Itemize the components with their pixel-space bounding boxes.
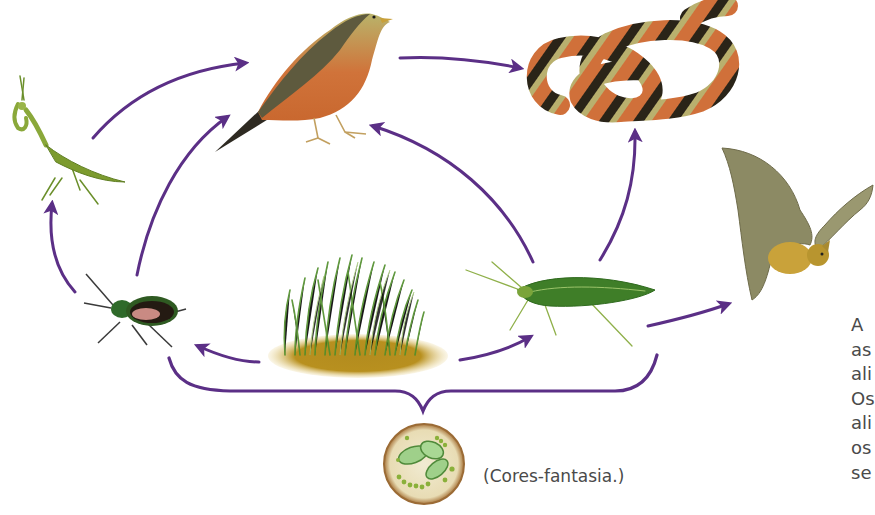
arrow-grasshopper-to-snake — [600, 132, 635, 260]
arrow-beetle-to-bird — [137, 117, 227, 275]
bird-illustration — [215, 14, 393, 152]
side-text-line: ali — [851, 412, 872, 433]
side-text-cropped: A as ali Os ali os se — [851, 313, 875, 485]
side-text-line: se — [851, 462, 871, 483]
grasshopper-illustration — [466, 262, 655, 346]
side-text-line: A — [851, 314, 863, 335]
snake-illustration — [537, 6, 729, 112]
arrow-grass-to-beetle — [198, 346, 259, 362]
side-text-line: ali — [851, 363, 872, 384]
side-text-line: as — [851, 339, 871, 360]
decomposers-illustration — [384, 424, 464, 504]
side-text-line: os — [851, 437, 871, 458]
arrow-mantis-to-bird — [93, 63, 245, 138]
arrow-grass-to-grasshopper — [460, 337, 530, 360]
mantis-illustration — [14, 76, 125, 204]
side-text-line: Os — [851, 388, 875, 409]
beetle-illustration — [84, 274, 186, 347]
arrow-bird-to-snake — [400, 57, 520, 68]
grass-illustration — [268, 255, 448, 378]
arrow-grasshopper-to-bat — [648, 304, 728, 326]
arrow-grasshopper-to-bird — [373, 126, 533, 262]
caption-fantasy-colors: (Cores-fantasia.) — [483, 466, 624, 486]
arrow-beetle-to-mantis — [51, 204, 75, 292]
bat-illustration — [722, 148, 873, 300]
